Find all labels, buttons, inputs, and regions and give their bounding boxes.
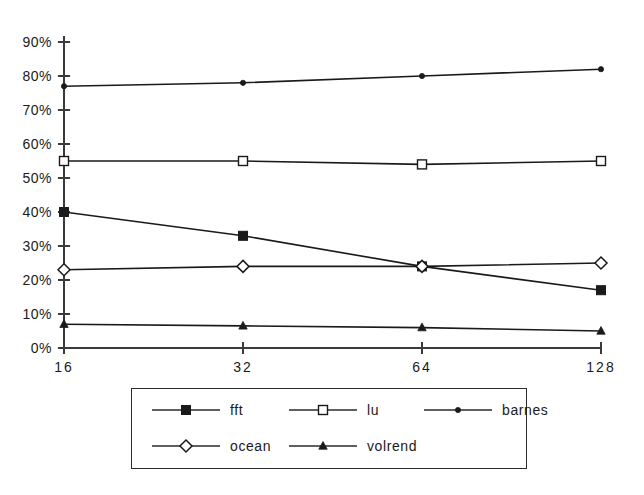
legend-label: lu [367,402,379,418]
line-chart: 0%10%20%30%40%50%60%70%80%90% 163264128 … [0,0,644,495]
y-axis-tick-label: 0% [4,341,52,355]
legend-marker-filled-dot-icon [422,400,494,420]
legend-label: fft [230,402,243,418]
legend-sample-svg [150,436,222,456]
x-axis-tick-label: 16 [19,360,109,374]
data-point-lu [597,157,606,166]
series-line-fft [64,212,601,290]
series-lu [60,157,606,169]
y-axis-tick-label: 70% [4,103,52,117]
x-axis-tick-label: 32 [198,360,288,374]
legend-item-barnes[interactable]: barnes [422,393,548,427]
legend-marker-filled-square-icon [150,400,222,420]
data-point-barnes [598,67,603,72]
data-point-ocean [595,257,607,269]
data-point-barnes [419,73,424,78]
y-axis-tick-label: 60% [4,137,52,151]
y-axis-tick-label: 90% [4,35,52,49]
legend-sample-marker [319,406,328,415]
legend-item-fft[interactable]: fft [150,393,243,427]
legend-row: oceanvolrend [132,429,526,463]
y-axis-tick-label: 50% [4,171,52,185]
data-point-fft [597,286,606,295]
data-point-lu [418,160,427,169]
series-line-ocean [64,263,601,270]
data-point-lu [60,157,69,166]
legend-marker-open-square-icon [287,400,359,420]
y-axis-tick-label: 80% [4,69,52,83]
y-axis-tick-label: 30% [4,239,52,253]
chart-legend: fftlubarnes oceanvolrend [131,388,527,469]
legend-label: volrend [367,438,417,454]
series-volrend [60,320,605,335]
plot-area: 0%10%20%30%40%50%60%70%80%90% 163264128 [0,0,644,380]
legend-marker-filled-triangle-icon [287,436,359,456]
legend-sample-svg [150,400,222,420]
legend-label: barnes [502,402,548,418]
series-line-volrend [64,324,601,331]
data-point-barnes [240,80,245,85]
legend-item-volrend[interactable]: volrend [287,429,417,463]
legend-item-ocean[interactable]: ocean [150,429,271,463]
x-axis-tick-label: 128 [556,360,644,374]
legend-sample-svg [287,436,359,456]
y-axis-tick-label: 40% [4,205,52,219]
series-ocean [58,257,607,276]
data-point-lu [239,157,248,166]
data-point-barnes [61,84,66,89]
series-line-barnes [64,69,601,86]
data-point-ocean [237,260,249,272]
legend-sample-marker [182,406,191,415]
series-line-lu [64,161,601,164]
legend-marker-open-diamond-icon [150,436,222,456]
legend-sample-svg [287,400,359,420]
data-point-fft [239,231,248,240]
series-fft [60,208,606,295]
legend-sample-marker [180,440,192,452]
y-axis-tick-label: 20% [4,273,52,287]
legend-label: ocean [230,438,271,454]
plot-svg [0,0,644,380]
legend-sample-svg [422,400,494,420]
legend-item-lu[interactable]: lu [287,393,379,427]
legend-row: fftlubarnes [132,393,526,427]
x-axis-tick-label: 64 [377,360,467,374]
series-barnes [61,67,603,89]
legend-sample-marker [455,407,460,412]
data-point-fft [60,208,69,217]
y-axis-tick-label: 10% [4,307,52,321]
data-point-ocean [58,264,70,276]
